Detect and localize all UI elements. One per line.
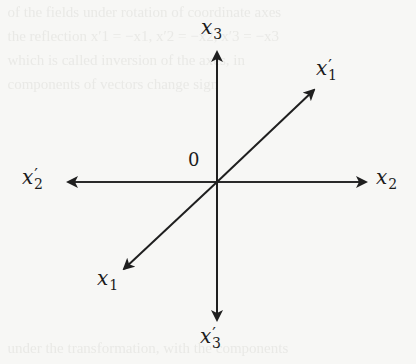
axes-diagram <box>0 0 416 364</box>
label-x2-prime: x′2 <box>22 167 43 191</box>
label-x3: x3 <box>201 17 222 41</box>
origin-label: 0 <box>188 151 199 169</box>
axis-x1 <box>124 182 217 269</box>
label-x3-prime: x′3 <box>200 326 221 350</box>
axis-x1-prime <box>217 90 314 182</box>
label-x2: x2 <box>376 167 397 191</box>
label-x1: x1 <box>97 268 118 292</box>
label-x1-prime: x′1 <box>316 58 337 82</box>
